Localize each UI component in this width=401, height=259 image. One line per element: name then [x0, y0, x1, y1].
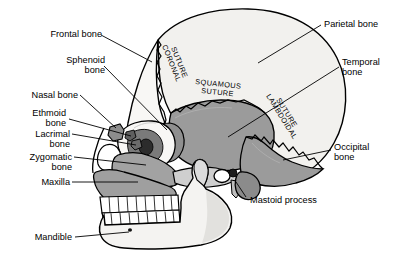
label-zygomatic-bone-line2: bone — [0, 162, 72, 172]
label-nasal-bone: Nasal bone — [0, 90, 78, 100]
label-frontal-bone: Frontal bone — [10, 29, 102, 39]
label-sphenoid-bone-line1: Sphenoid — [10, 55, 105, 65]
label-occipital-bone-line1: Occipital — [334, 142, 369, 152]
nasal-bone-shape — [108, 124, 124, 141]
label-sphenoid-bone-line2: bone — [10, 65, 105, 75]
mental-foramen — [128, 228, 132, 232]
leader-frontal-bone — [101, 35, 152, 62]
label-ethmoid-bone-line2: bone — [0, 118, 66, 128]
label-parietal-bone: Parietal bone — [324, 19, 378, 29]
label-ethmoid-bone-line1: Ethmoid — [0, 108, 66, 118]
label-lacrimal-bone-line1: Lacrimal — [0, 129, 70, 139]
label-occipital-bone-line2: bone — [334, 152, 354, 162]
label-temporal-bone-line2: bone — [342, 67, 362, 77]
label-maxilla: Maxilla — [0, 177, 70, 187]
label-lacrimal-bone-line2: bone — [0, 139, 70, 149]
label-zygomatic-bone-line1: Zygomatic — [0, 152, 72, 162]
auditory-meatus-inner — [229, 169, 237, 177]
label-temporal-bone-line1: Temporal — [342, 57, 380, 67]
label-mandible: Mandible — [0, 232, 72, 242]
skull-diagram-page: CORONAL SUTURE SQUAMOUS SUTURE LAMBDOIDA… — [0, 0, 401, 259]
external-auditory-meatus — [214, 170, 230, 183]
label-mastoid-process: Mastoid process — [250, 195, 317, 205]
